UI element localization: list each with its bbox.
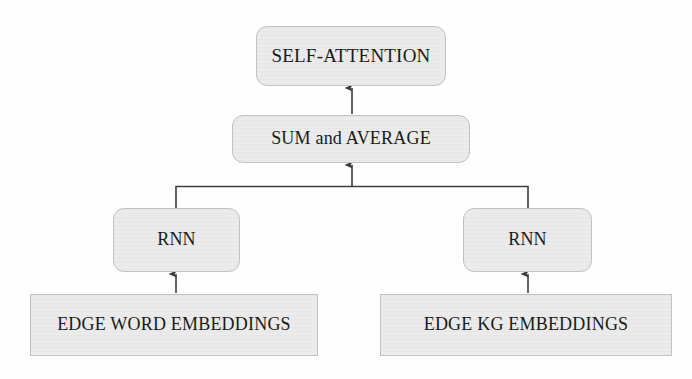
node-edge-kg-embeddings: EDGE KG EMBEDDINGS	[380, 294, 672, 356]
node-rnn-right: RNN	[463, 208, 592, 272]
node-edge-word-embeddings: EDGE WORD EMBEDDINGS	[30, 294, 318, 356]
edge-bracket-rnn-merge	[176, 187, 528, 209]
node-self-attention-label: SELF-ATTENTION	[271, 46, 430, 67]
node-rnn-left: RNN	[113, 208, 240, 272]
architecture-diagram: SELF-ATTENTION SUM and AVERAGE RNN RNN E…	[0, 0, 692, 379]
node-rnn-right-label: RNN	[508, 230, 547, 250]
node-sum-and-average: SUM and AVERAGE	[232, 115, 470, 163]
node-self-attention: SELF-ATTENTION	[256, 26, 446, 86]
node-edge-kg-embeddings-label: EDGE KG EMBEDDINGS	[424, 315, 629, 335]
node-sum-and-average-label: SUM and AVERAGE	[271, 129, 431, 149]
node-rnn-left-label: RNN	[157, 230, 196, 250]
node-edge-word-embeddings-label: EDGE WORD EMBEDDINGS	[57, 315, 291, 335]
